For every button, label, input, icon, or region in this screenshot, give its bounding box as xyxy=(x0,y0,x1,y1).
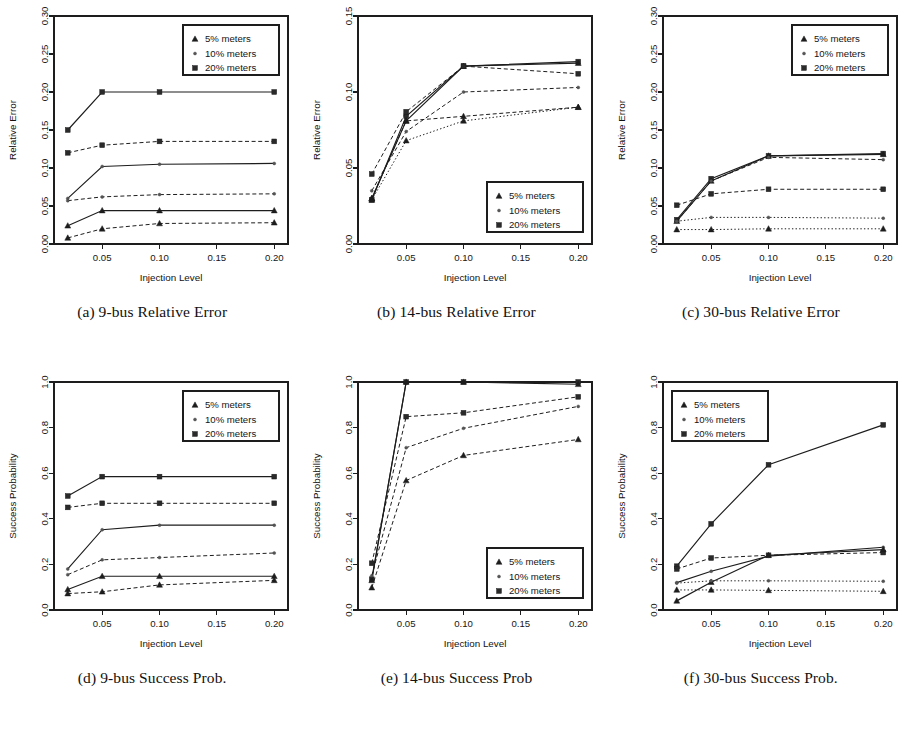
triangle-up-marker xyxy=(369,584,375,589)
square-marker xyxy=(66,505,71,510)
y-tick-label: 0.05 xyxy=(343,159,354,178)
triangle-up-marker xyxy=(576,104,582,109)
series-line xyxy=(68,163,274,198)
panel-c: 0.000.050.100.150.200.250.300.050.100.15… xyxy=(609,0,913,366)
square-marker xyxy=(157,90,162,95)
panel-b-caption: (b) 14-bus Relative Error xyxy=(377,303,536,321)
series-line xyxy=(68,141,274,152)
series-line xyxy=(372,396,578,562)
panel-c-plot: 0.000.050.100.150.200.250.300.050.100.15… xyxy=(611,0,911,300)
small-circle-marker xyxy=(710,179,713,182)
square-marker xyxy=(681,431,686,436)
y-axis-title: Success Probability xyxy=(7,453,18,539)
y-tick-label: 0.2 xyxy=(343,557,354,570)
square-marker xyxy=(272,139,277,144)
y-axis-title: Relative Error xyxy=(311,99,322,160)
legend-label: 20% meters xyxy=(205,62,256,73)
x-tick-label: 0.15 xyxy=(816,618,835,629)
y-tick-label: 0.15 xyxy=(343,7,354,26)
small-circle-marker xyxy=(577,404,580,407)
x-axis-title: Injection Level xyxy=(444,272,507,283)
small-circle-marker xyxy=(675,220,678,223)
y-tick-label: 0.25 xyxy=(647,45,658,64)
square-marker xyxy=(497,588,502,593)
y-tick-label: 0.8 xyxy=(343,420,354,433)
y-tick-label: 0.10 xyxy=(39,159,50,178)
small-circle-marker xyxy=(273,551,276,554)
triangle-up-marker xyxy=(576,436,582,441)
y-tick-label: 0.20 xyxy=(647,83,658,102)
legend-label: 5% meters xyxy=(694,399,740,410)
legend: 5% meters10% meters20% meters xyxy=(183,25,279,75)
y-axis-title: Success Probability xyxy=(311,453,322,539)
y-tick-label: 0.05 xyxy=(39,197,50,216)
series-line xyxy=(677,157,883,221)
y-tick-label: 0.25 xyxy=(39,45,50,64)
series-line xyxy=(677,154,883,221)
series-line xyxy=(68,223,274,238)
series-line xyxy=(68,503,274,507)
small-circle-marker xyxy=(158,193,161,196)
square-marker xyxy=(709,521,714,526)
legend-label: 10% meters xyxy=(509,570,560,581)
square-marker xyxy=(100,143,105,148)
legend: 5% meters10% meters20% meters xyxy=(487,548,583,598)
figure-grid: 0.000.050.100.150.200.250.300.050.100.15… xyxy=(0,0,913,731)
series-line xyxy=(372,63,578,198)
x-axis-title: Injection Level xyxy=(140,272,203,283)
triangle-up-marker xyxy=(461,452,467,457)
series-line xyxy=(677,549,883,600)
y-tick-label: 0.10 xyxy=(647,159,658,178)
panel-e-plot: 0.00.20.40.60.81.00.050.100.150.20Inject… xyxy=(306,366,606,666)
small-circle-marker xyxy=(273,523,276,526)
small-circle-marker xyxy=(66,573,69,576)
legend-label: 20% meters xyxy=(814,62,865,73)
small-circle-marker xyxy=(405,446,408,449)
y-tick-label: 0.4 xyxy=(39,511,50,525)
x-tick-label: 0.10 xyxy=(150,618,169,629)
y-tick-label: 0.4 xyxy=(647,511,658,525)
y-tick-label: 0.00 xyxy=(343,235,354,254)
square-marker xyxy=(66,128,71,133)
panel-f: 0.00.20.40.60.81.00.050.100.150.20Inject… xyxy=(609,366,913,731)
legend-label: 5% meters xyxy=(205,33,251,44)
small-circle-marker xyxy=(101,195,104,198)
series-group xyxy=(65,474,277,596)
series-line xyxy=(68,211,274,226)
square-marker xyxy=(462,64,467,69)
square-marker xyxy=(370,560,375,565)
square-marker xyxy=(157,139,162,144)
y-tick-label: 1.0 xyxy=(343,375,354,388)
small-circle-marker xyxy=(767,579,770,582)
y-tick-label: 0.4 xyxy=(343,511,354,525)
y-axis-title: Success Probability xyxy=(616,453,627,539)
y-tick-label: 0.6 xyxy=(39,466,50,479)
square-marker xyxy=(157,474,162,479)
y-tick-label: 0.6 xyxy=(647,466,658,479)
small-circle-marker xyxy=(101,528,104,531)
x-tick-label: 0.20 xyxy=(874,252,893,263)
square-marker xyxy=(100,90,105,95)
legend-label: 20% meters xyxy=(509,219,560,230)
x-tick-label: 0.10 xyxy=(759,618,778,629)
series-line xyxy=(68,576,274,589)
series-group xyxy=(674,422,886,603)
small-circle-marker xyxy=(682,418,685,421)
series-group xyxy=(674,151,886,232)
series-line xyxy=(677,229,883,230)
small-circle-marker xyxy=(577,86,580,89)
triangle-up-marker xyxy=(674,597,680,602)
panel-a-plot: 0.000.050.100.150.200.250.300.050.100.15… xyxy=(2,0,302,300)
small-circle-marker xyxy=(767,156,770,159)
square-marker xyxy=(766,462,771,467)
panel-c-caption: (c) 30-bus Relative Error xyxy=(682,303,840,321)
series-group xyxy=(369,59,581,202)
small-circle-marker xyxy=(463,91,466,94)
square-marker xyxy=(100,500,105,505)
y-tick-label: 0.2 xyxy=(39,557,50,570)
panel-e-caption: (e) 14-bus Success Prob xyxy=(381,669,533,687)
square-marker xyxy=(193,66,198,71)
legend-label: 20% meters xyxy=(509,585,560,596)
series-line xyxy=(372,62,578,200)
small-circle-marker xyxy=(158,523,161,526)
